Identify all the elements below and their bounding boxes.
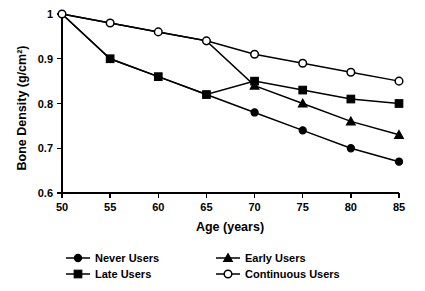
- series-layer: [58, 10, 403, 165]
- x-axis-title-text: Age (years): [196, 220, 264, 234]
- data-point-marker: [106, 55, 114, 63]
- chart-legend: Never UsersEarly UsersLate UsersContinuo…: [66, 252, 340, 280]
- x-tick-label: 70: [248, 201, 260, 213]
- x-tick-label: 85: [393, 201, 405, 213]
- legend-label: Late Users: [95, 268, 151, 280]
- data-point-marker: [106, 19, 114, 27]
- data-point-marker: [395, 158, 402, 165]
- data-point-marker: [203, 91, 211, 99]
- data-point-marker: [395, 100, 403, 108]
- x-tick-label: 75: [297, 201, 309, 213]
- legend-marker-icon: [224, 270, 232, 278]
- x-tick-label: 60: [152, 201, 164, 213]
- x-axis-ticks: 5055606570758085: [56, 193, 405, 213]
- legend-label: Early Users: [245, 252, 306, 264]
- y-tick-label: 0.6: [38, 187, 53, 199]
- y-axis-title-text: Bone Density (g/cm²): [15, 45, 29, 170]
- legend-item-continuous-users: Continuous Users: [216, 268, 340, 280]
- legend-item-never-users: Never Users: [66, 252, 159, 264]
- line-chart: Bone Density (g/cm²) 0.60.70.80.91 50556…: [0, 0, 425, 291]
- data-point-marker: [203, 37, 211, 45]
- legend-marker-icon: [74, 270, 82, 278]
- data-point-marker: [347, 145, 354, 152]
- y-tick-label: 0.9: [38, 53, 53, 65]
- x-tick-label: 50: [56, 201, 68, 213]
- data-point-marker: [395, 77, 403, 85]
- data-point-marker: [299, 86, 307, 94]
- data-point-marker: [347, 95, 355, 103]
- data-point-marker: [251, 109, 258, 116]
- y-tick-label: 0.7: [38, 142, 53, 154]
- data-point-marker: [154, 73, 162, 81]
- data-point-marker: [251, 50, 259, 58]
- y-tick-label: 1: [47, 8, 53, 20]
- data-point-marker: [58, 10, 66, 18]
- data-point-marker: [347, 68, 355, 76]
- legend-item-late-users: Late Users: [66, 268, 151, 280]
- data-point-marker: [299, 59, 307, 67]
- legend-label: Never Users: [95, 252, 159, 264]
- y-axis-title: Bone Density (g/cm²): [15, 45, 29, 170]
- x-tick-label: 80: [345, 201, 357, 213]
- legend-marker-icon: [74, 254, 81, 261]
- data-point-marker: [154, 28, 162, 36]
- series-never-users: [62, 14, 403, 165]
- legend-item-early-users: Early Users: [216, 252, 306, 264]
- series-continuous-users: [58, 10, 403, 85]
- data-point-marker: [299, 127, 306, 134]
- x-tick-label: 55: [104, 201, 116, 213]
- y-tick-label: 0.8: [38, 98, 53, 110]
- y-axis-ticks: 0.60.70.80.91: [38, 8, 62, 199]
- x-tick-label: 65: [200, 201, 212, 213]
- series-late-users: [62, 14, 403, 107]
- legend-label: Continuous Users: [245, 268, 340, 280]
- bone-density-figure: Bone Density (g/cm²) 0.60.70.80.91 50556…: [0, 0, 425, 291]
